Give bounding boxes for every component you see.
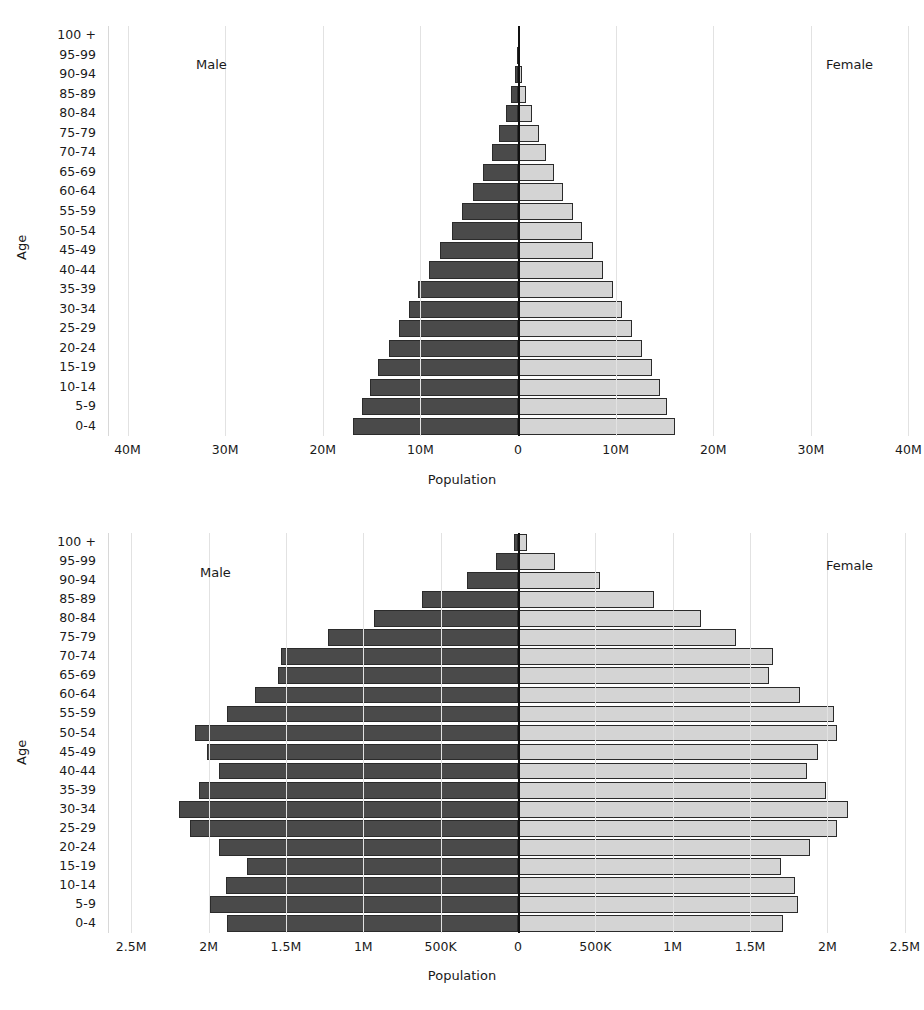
bar-male: [226, 877, 518, 894]
bar-female: [518, 687, 800, 704]
bar-male: [467, 572, 518, 589]
pyramid-row: [108, 801, 924, 818]
bar-female: [518, 164, 554, 181]
bar-female: [518, 877, 795, 894]
bar-male: [399, 320, 518, 337]
pyramid-row: [108, 125, 924, 142]
bar-female: [518, 648, 773, 665]
y-tick-label: 90-94: [59, 574, 96, 587]
y-tick-label: 80-84: [59, 107, 96, 120]
bar-male: [422, 591, 518, 608]
x-tick-label: 500K: [425, 941, 457, 954]
gridline: [441, 533, 442, 933]
gridline: [209, 533, 210, 933]
zero-axis-line: [518, 26, 520, 436]
y-tick-label: 20-24: [59, 342, 96, 355]
bar-male: [219, 763, 518, 780]
pyramid-row: [108, 418, 924, 435]
bar-female: [518, 203, 573, 220]
bar-male: [378, 359, 518, 376]
bar-female: [518, 125, 539, 142]
bar-female: [518, 301, 622, 318]
y-tick-label: 0-4: [75, 917, 96, 930]
y-tick-label: 55-59: [59, 707, 96, 720]
y-tick-label: 55-59: [59, 205, 96, 218]
pyramid-row: [108, 261, 924, 278]
y-tick-label: 50-54: [59, 225, 96, 238]
x-tick-label: 20M: [700, 444, 727, 457]
pyramid-row: [108, 687, 924, 704]
bar-male: [247, 858, 518, 875]
bar-male: [328, 629, 518, 646]
pyramid-row: [108, 281, 924, 298]
bar-male: [362, 398, 518, 415]
y-tick-label: 70-74: [59, 650, 96, 663]
pyramid-row: [108, 47, 924, 64]
bar-male: [255, 687, 518, 704]
population-pyramid-figure: Age 100 +95-9990-9485-8980-8475-7970-746…: [0, 0, 924, 1010]
bar-male: [370, 379, 518, 396]
bar-female: [518, 183, 563, 200]
y-tick-label: 80-84: [59, 612, 96, 625]
x-tick-label: 2.5M: [889, 941, 920, 954]
bar-female: [518, 222, 582, 239]
gridline: [616, 26, 617, 436]
pyramid-row: [108, 820, 924, 837]
pyramid-row: [108, 398, 924, 415]
pyramid-row: [108, 610, 924, 627]
pyramid-row: [108, 183, 924, 200]
plot-area-bottom: [108, 533, 924, 933]
bar-male: [506, 105, 518, 122]
bar-female: [518, 144, 546, 161]
bar-female: [518, 801, 848, 818]
bar-female: [518, 629, 736, 646]
bar-female: [518, 915, 783, 932]
y-tick-label: 5-9: [75, 898, 96, 911]
bar-male: [483, 164, 518, 181]
pyramid-row: [108, 359, 924, 376]
gridline: [323, 26, 324, 436]
y-tick-label: 50-54: [59, 727, 96, 740]
y-tick-label: 10-14: [59, 381, 96, 394]
bar-male: [499, 125, 518, 142]
bar-male: [195, 725, 518, 742]
bar-female: [518, 667, 769, 684]
y-tick-label: 20-24: [59, 841, 96, 854]
y-tick-label: 40-44: [59, 264, 96, 277]
y-axis-labels-top: 100 +95-9990-9485-8980-8475-7970-7465-69…: [0, 26, 104, 436]
bar-male: [219, 839, 518, 856]
gridline: [286, 533, 287, 933]
bar-female: [518, 858, 781, 875]
bar-male: [227, 706, 518, 723]
y-tick-label: 25-29: [59, 322, 96, 335]
x-axis-title-top: Population: [0, 472, 924, 487]
bar-male: [353, 418, 518, 435]
y-tick-label: 10-14: [59, 879, 96, 892]
pyramid-row: [108, 203, 924, 220]
bar-female: [518, 261, 603, 278]
y-tick-label: 5-9: [75, 400, 96, 413]
gridline: [827, 533, 828, 933]
series-label-male-bottom: Male: [200, 565, 231, 580]
pyramid-row: [108, 301, 924, 318]
x-tick-label: 0: [514, 941, 522, 954]
bar-female: [518, 725, 837, 742]
bar-female: [518, 105, 532, 122]
x-tick-label: 1.5M: [735, 941, 766, 954]
bar-female: [518, 591, 654, 608]
bar-female: [518, 553, 555, 570]
gridline: [908, 26, 909, 436]
y-tick-label: 95-99: [59, 49, 96, 62]
bar-male: [179, 801, 518, 818]
x-tick-label: 10M: [602, 444, 629, 457]
x-axis-title-bottom: Population: [0, 968, 924, 983]
pyramid-row: [108, 839, 924, 856]
pyramid-row: [108, 763, 924, 780]
bar-male: [418, 281, 518, 298]
x-tick-label: 20M: [309, 444, 336, 457]
x-tick-label: 2.5M: [116, 941, 147, 954]
pyramid-row: [108, 534, 924, 551]
gridline: [595, 533, 596, 933]
x-tick-label: 2M: [199, 941, 218, 954]
y-axis-spine: [108, 533, 109, 933]
